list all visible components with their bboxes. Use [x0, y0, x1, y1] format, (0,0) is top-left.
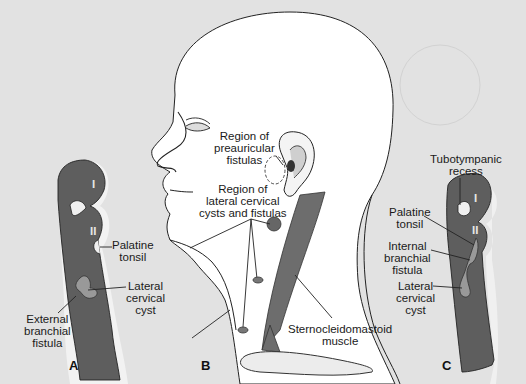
- label-internal-branchial-fistula: Internalbranchialfistula: [384, 240, 431, 276]
- label-external-branchial-fistula: Externalbranchialfistula: [24, 313, 71, 349]
- label-lateral-cervical-cysts-fistulas: Region oflateral cervicalcysts and fistu…: [199, 183, 287, 219]
- figure: I II Palatinetonsil Lateralcervicalcyst …: [0, 0, 526, 384]
- label-palatine-tonsil-a: Palatinetonsil: [112, 239, 154, 263]
- label-preauricular-fistulas: Region ofpreauricularfistulas: [214, 130, 275, 166]
- label-lateral-cervical-cyst-a: Lateralcervicalcyst: [126, 280, 165, 316]
- panel-c-embryo: [447, 173, 498, 384]
- panel-label-c: C: [442, 358, 451, 373]
- label-palatine-tonsil-c: Palatinetonsil: [389, 206, 431, 230]
- panel-a-embryo: [58, 160, 128, 384]
- arch-numeral-ii-c: II: [472, 224, 478, 236]
- label-tubotympanic-recess: Tubotympanicrecess: [430, 153, 502, 177]
- arch-numeral-ii-a: II: [90, 225, 96, 237]
- panel-label-b: B: [201, 358, 210, 373]
- label-sternocleidomastoid-muscle: Sternocleidomastoidmuscle: [288, 323, 392, 347]
- panel-label-a: A: [69, 358, 78, 373]
- arch-numeral-i-c: I: [474, 192, 477, 204]
- label-lateral-cervical-cyst-c: Lateralcervicalcyst: [396, 280, 435, 316]
- arch-numeral-i-a: I: [92, 178, 95, 190]
- faint-circle-decoration: [400, 45, 480, 125]
